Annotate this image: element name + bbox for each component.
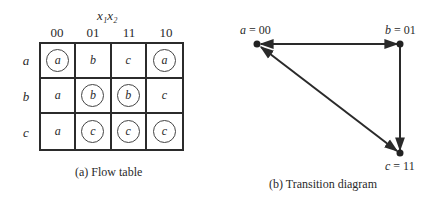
node-a-label: a = 00 bbox=[240, 23, 271, 38]
node-c bbox=[397, 150, 404, 157]
node-b-code: = 01 bbox=[391, 23, 416, 37]
transition-diagram-caption: (b) Transition diagram bbox=[269, 177, 377, 192]
node-b-label: b = 01 bbox=[385, 23, 416, 38]
node-c-label: c = 11 bbox=[385, 159, 415, 174]
node-b bbox=[397, 41, 404, 48]
node-c-code: = 11 bbox=[390, 159, 414, 173]
node-a bbox=[254, 41, 261, 48]
transition-diagram-edges bbox=[0, 0, 443, 197]
edge-a-c bbox=[261, 47, 397, 151]
node-a-code: = 00 bbox=[246, 23, 271, 37]
